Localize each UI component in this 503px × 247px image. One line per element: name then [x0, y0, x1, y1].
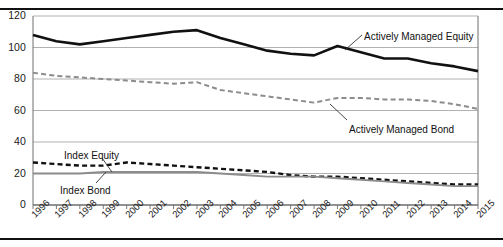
- y-axis-tick-100: 100: [0, 41, 26, 53]
- y-axis-tick-40: 40: [0, 135, 26, 147]
- series-line-actively-managed-bond: [33, 73, 478, 109]
- y-axis-tick-120: 120: [0, 9, 26, 21]
- annotation-actively-managed-equity: Actively Managed Equity: [364, 31, 474, 42]
- annotation-index-bond: Index Bond: [60, 185, 111, 196]
- chart-figure: 020406080100120 199619971998199920002001…: [0, 0, 503, 247]
- annotation-index-equity: Index Equity: [64, 150, 119, 161]
- y-axis-tick-20: 20: [0, 167, 26, 179]
- y-axis-tick-80: 80: [0, 72, 26, 84]
- annotation-leader-lines: [96, 35, 362, 183]
- y-axis-tick-0: 0: [0, 198, 26, 210]
- y-axis-tick-60: 60: [0, 104, 26, 116]
- data-series-layer: [33, 30, 478, 186]
- annotation-actively-managed-bond: Actively Managed Bond: [349, 124, 454, 135]
